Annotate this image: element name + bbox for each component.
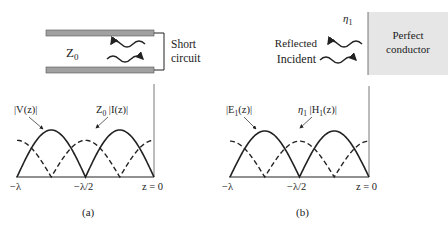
current-label: Z0 |I(z)| <box>96 104 128 118</box>
conductor-label-2: conductor <box>386 43 430 55</box>
eta-label: η1 <box>343 12 352 27</box>
incident-wave-arrow-b <box>320 57 356 63</box>
short-circuit-wire <box>154 33 164 70</box>
e-h-field-solid-curve <box>230 131 369 177</box>
impedance-label: Z0 <box>66 45 79 62</box>
curves-b <box>230 131 369 177</box>
voltage-current-dashed-curve <box>17 140 154 177</box>
h-field-label: η1 |H1(z)| <box>298 104 337 118</box>
panel-a: Z0 Short circuit |V(z)| Z0 |I(z)| −λ −λ/… <box>10 30 201 219</box>
e-field-leader <box>244 117 256 129</box>
tick-minus-lambda-b: −λ <box>222 181 234 192</box>
tick-minus-half-lambda: −λ/2 <box>74 181 93 192</box>
reflected-wave-arrow-b <box>328 41 362 47</box>
short-label: Short <box>171 38 197 50</box>
transmission-line-bottom-conductor <box>46 67 154 73</box>
reflected-wave-arrow <box>111 41 145 47</box>
transmission-line-top-conductor <box>46 30 154 36</box>
caption-b: (b) <box>296 206 309 219</box>
panel-b: Perfect conductor η1 Reflected Incident … <box>222 12 448 219</box>
e-h-field-dashed-curve <box>230 141 369 177</box>
tick-minus-half-lambda-b: −λ/2 <box>287 181 306 192</box>
tick-zero: z = 0 <box>142 181 163 192</box>
reflected-label: Reflected <box>275 37 318 49</box>
incident-wave-arrow <box>107 56 143 62</box>
e-field-label: |E1(z)| <box>226 104 252 118</box>
caption-a: (a) <box>82 206 95 219</box>
incident-label: Incident <box>277 52 317 66</box>
conductor-label-1: Perfect <box>392 29 423 41</box>
h-field-leader <box>300 117 312 128</box>
tick-zero-b: z = 0 <box>356 181 377 192</box>
tick-minus-lambda: −λ <box>10 181 22 192</box>
curves-a <box>17 130 154 177</box>
circuit-label: circuit <box>171 52 201 64</box>
voltage-leader <box>29 117 43 129</box>
voltage-current-solid-curve <box>17 130 154 177</box>
voltage-label: |V(z)| <box>14 104 37 116</box>
standing-wave-diagram: Z0 Short circuit |V(z)| Z0 |I(z)| −λ −λ/… <box>0 0 448 227</box>
current-leader <box>96 117 108 128</box>
